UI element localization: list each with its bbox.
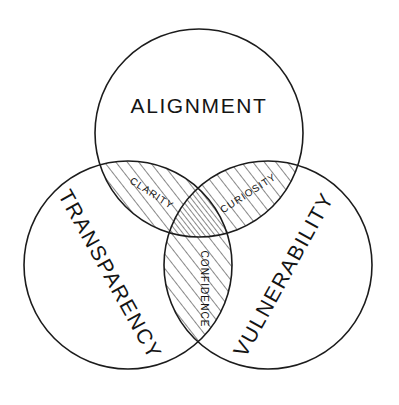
label-alignment: ALIGNMENT bbox=[131, 94, 268, 117]
label-confidence: CONFIDENCE bbox=[199, 250, 210, 327]
venn-canvas: ALIGNMENT TRANSPARENCY VULNERABILITY CLA… bbox=[0, 0, 399, 405]
venn-diagram: ALIGNMENT TRANSPARENCY VULNERABILITY CLA… bbox=[0, 0, 399, 405]
